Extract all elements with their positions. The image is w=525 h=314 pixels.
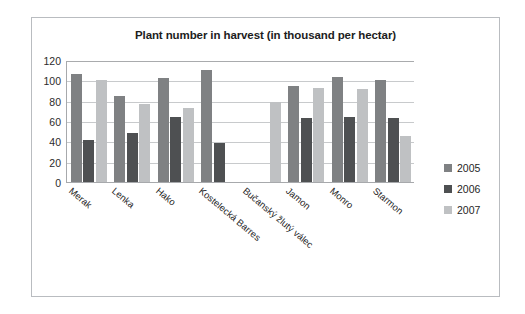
chart-legend: 200520062007	[444, 157, 504, 220]
chart-container: Plant number in harvest (in thousand per…	[31, 17, 500, 297]
legend-swatch-icon	[444, 164, 452, 172]
x-axis-category-label: Jamon	[284, 185, 313, 212]
bar[interactable]	[332, 77, 343, 182]
bar[interactable]	[357, 89, 368, 182]
bar[interactable]	[344, 117, 355, 182]
bar-group	[67, 61, 111, 182]
bar[interactable]	[313, 88, 324, 182]
y-axis-tick-label: 80	[49, 96, 61, 108]
chart-title: Plant number in harvest (in thousand per…	[32, 29, 499, 41]
bar-group	[285, 61, 329, 182]
bars-layer	[67, 61, 414, 182]
legend-swatch-icon	[444, 185, 452, 193]
bar[interactable]	[301, 118, 312, 182]
x-axis-category-label: Lenka	[110, 185, 137, 210]
bar[interactable]	[71, 74, 82, 182]
bar-group	[328, 61, 372, 182]
bar[interactable]	[375, 80, 386, 182]
bar[interactable]	[201, 70, 212, 182]
bar[interactable]	[400, 136, 411, 182]
bar[interactable]	[139, 104, 150, 182]
bar[interactable]	[214, 143, 225, 182]
y-axis-tick-label: 60	[49, 116, 61, 128]
y-axis-tick-label: 40	[49, 136, 61, 148]
legend-item[interactable]: 2006	[444, 178, 504, 199]
x-axis-category-label: Merak	[67, 185, 94, 210]
bar-group	[372, 61, 416, 182]
y-axis-tick-label: 20	[49, 157, 61, 169]
x-axis-category-label: Starmon	[371, 185, 406, 217]
bar-group	[198, 61, 242, 182]
y-axis-tick-label: 0	[55, 177, 61, 189]
legend-label: 2005	[457, 162, 480, 174]
legend-label: 2007	[457, 204, 480, 216]
plot-area: 020406080100120	[66, 61, 414, 183]
legend-label: 2006	[457, 183, 480, 195]
bar[interactable]	[114, 96, 125, 182]
bar[interactable]	[170, 117, 181, 182]
y-axis-tick-label: 120	[43, 55, 61, 67]
legend-swatch-icon	[444, 206, 452, 214]
y-axis-tick-label: 100	[43, 75, 61, 87]
legend-item[interactable]: 2005	[444, 157, 504, 178]
x-axis-category-labels: MerakLenkaHakoKostelecká BarresBučanský …	[66, 185, 414, 295]
bar-group	[111, 61, 155, 182]
x-axis-category-label: Hako	[154, 185, 178, 208]
bar-group	[154, 61, 198, 182]
bar[interactable]	[288, 86, 299, 182]
bar[interactable]	[270, 102, 281, 182]
x-axis-category-label: Monro	[328, 185, 356, 211]
bar[interactable]	[96, 80, 107, 182]
bar[interactable]	[388, 118, 399, 182]
bar[interactable]	[158, 78, 169, 182]
bar[interactable]	[127, 133, 138, 182]
bar[interactable]	[183, 108, 194, 182]
bar[interactable]	[83, 140, 94, 182]
bar-group	[241, 61, 285, 182]
plot-wrapper: 020406080100120	[66, 61, 414, 183]
legend-item[interactable]: 2007	[444, 199, 504, 220]
